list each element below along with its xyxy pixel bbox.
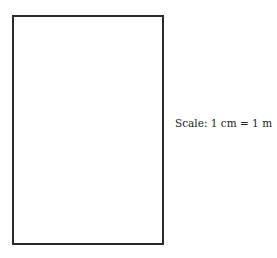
scale-drawing-diagram: Scale: 1 cm = 1 m	[0, 0, 277, 258]
rectangle-shape	[12, 15, 164, 245]
scale-label: Scale: 1 cm = 1 m	[175, 117, 272, 129]
